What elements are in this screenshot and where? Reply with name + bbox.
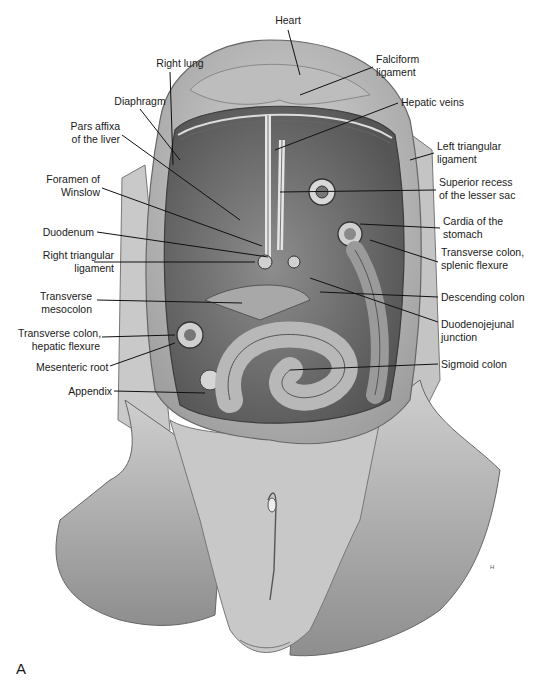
- label-appendix: Appendix: [68, 385, 112, 398]
- label-hepatic-veins: Hepatic veins: [401, 96, 501, 109]
- panel-letter: A: [16, 660, 26, 677]
- label-duodenum: Duodenum: [42, 226, 94, 239]
- label-transverse-mesocolon: Transverse mesocolon: [40, 290, 92, 315]
- label-duodenojejunal-junction: Duodenojejunal junction: [441, 318, 542, 343]
- label-transverse-colon-splenic: Transverse colon, splenic flexure: [441, 246, 542, 271]
- label-right-triangular-ligament: Right triangular ligament: [22, 249, 114, 274]
- artist-signature: H: [490, 564, 494, 570]
- label-foramen-of-winslow: Foramen of Winslow: [22, 173, 100, 198]
- label-superior-recess: Superior recess of the lesser sac: [439, 176, 542, 201]
- label-left-triangular-ligament: Left triangular ligament: [437, 140, 537, 165]
- label-pars-affixa: Pars affixa of the liver: [44, 120, 120, 145]
- label-descending-colon: Descending colon: [441, 291, 542, 304]
- label-mesenteric-root: Mesenteric root: [36, 361, 108, 374]
- label-heart: Heart: [258, 14, 318, 27]
- label-falciform-ligament: Falciform ligament: [376, 53, 456, 78]
- label-sigmoid-colon: Sigmoid colon: [441, 358, 542, 371]
- abdominal-cavity: [146, 40, 421, 444]
- label-diaphragm: Diaphragm: [100, 95, 180, 108]
- label-cardia: Cardia of the stomach: [443, 215, 542, 240]
- label-transverse-colon-hepatic: Transverse colon, hepatic flexure: [18, 327, 100, 352]
- label-right-lung: Right lung: [140, 57, 220, 70]
